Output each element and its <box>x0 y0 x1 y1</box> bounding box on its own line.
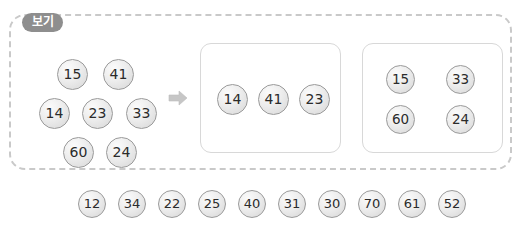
pool-number-token[interactable]: 25 <box>198 190 226 218</box>
result-number-token: 60 <box>386 105 415 134</box>
result-number-token: 41 <box>258 84 289 115</box>
arrow-right-icon <box>168 89 188 107</box>
result-number-token: 14 <box>217 84 248 115</box>
result-box-even[interactable]: 15336024 <box>362 43 503 153</box>
pool-number-token[interactable]: 61 <box>398 190 426 218</box>
pool-number-token[interactable]: 70 <box>358 190 386 218</box>
source-number-token: 41 <box>103 59 134 90</box>
source-number-cluster: 15411423336024 <box>9 14 174 170</box>
number-pool: 12342225403130706152 <box>0 186 521 222</box>
source-number-token: 23 <box>82 98 113 129</box>
pool-number-token[interactable]: 12 <box>78 190 106 218</box>
pool-number-token[interactable]: 31 <box>278 190 306 218</box>
source-number-token: 60 <box>63 137 94 168</box>
source-number-token: 24 <box>106 137 137 168</box>
source-number-token: 15 <box>57 59 88 90</box>
result-box-odd[interactable]: 144123 <box>200 43 341 153</box>
pool-number-token[interactable]: 34 <box>118 190 146 218</box>
pool-number-token[interactable]: 22 <box>158 190 186 218</box>
example-label-badge: 보기 <box>22 13 63 32</box>
source-number-token: 33 <box>126 98 157 129</box>
pool-number-token[interactable]: 30 <box>318 190 346 218</box>
result-number-token: 15 <box>386 65 415 94</box>
result-number-token: 33 <box>446 65 475 94</box>
source-number-token: 14 <box>39 98 70 129</box>
top-cropped-artifact <box>0 0 521 7</box>
result-number-token: 24 <box>446 105 475 134</box>
pool-number-token[interactable]: 52 <box>438 190 466 218</box>
pool-number-token[interactable]: 40 <box>238 190 266 218</box>
result-number-token: 23 <box>299 84 330 115</box>
